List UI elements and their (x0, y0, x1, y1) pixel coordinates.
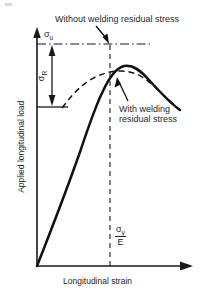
sigma-r-subscript: R (41, 71, 48, 76)
plot-canvas (0, 0, 209, 296)
x-axis-label: Longitudinal strain (63, 277, 132, 287)
leader-arrow-without (96, 26, 109, 44)
fraction-numerator: σy (115, 224, 126, 236)
sigma-r-label: σR (36, 54, 48, 98)
sigma-u-subscript: u (50, 34, 54, 41)
annotation-with-residual-stress: With welding residual stress (119, 104, 191, 124)
stress-strain-diagram: Without welding residual stress With wel… (0, 0, 209, 296)
yield-strain-fraction-label: σy E (115, 224, 126, 247)
title-without-residual-stress: Without welding residual stress (55, 14, 179, 24)
leader-arrow-with (115, 77, 128, 101)
sigma-y-subscript: y (122, 229, 125, 236)
y-axis-label: Applied longitudinal load (17, 87, 27, 207)
sigma-r-glyph: σ (36, 76, 46, 82)
x-axis (37, 262, 193, 271)
sigma-u-label: σu (44, 29, 53, 41)
curve-without-residual-stress (37, 66, 180, 266)
fraction-denominator: E (115, 236, 126, 247)
